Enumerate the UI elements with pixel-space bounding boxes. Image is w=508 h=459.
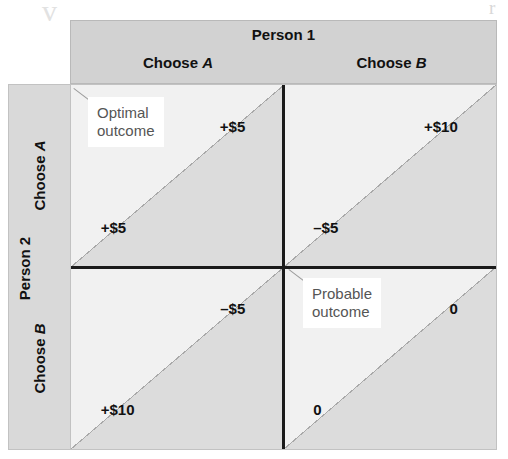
row-label-choose-b-choice: B [31, 323, 48, 334]
row-header-band: Person 2 Choose A Choose B [8, 84, 71, 450]
payoff-person1-a-b: +$10 [424, 118, 458, 135]
payoff-person1-a-a: +$5 [220, 118, 245, 135]
column-header-band: Person 1 Choose A Choose B [70, 20, 497, 84]
triangle-upper-a-b [284, 85, 497, 267]
column-label-choose-b-choice: B [416, 54, 427, 71]
column-label-choose-b: Choose B [285, 54, 498, 71]
column-label-choose-a: Choose A [71, 54, 285, 71]
column-label-choose-a-choice: A [202, 54, 213, 71]
scan-artifact-right: r [489, 0, 495, 19]
row-label-choose-a-prefix: Choose [31, 151, 48, 210]
column-label-choose-b-prefix: Choose [356, 54, 415, 71]
scan-artifact-left: v [42, 0, 55, 28]
payoff-person2-b-a: +$10 [101, 401, 135, 418]
matrix-divider-horizontal [71, 266, 496, 269]
row-label-choose-b-prefix: Choose [31, 334, 48, 393]
column-label-choose-a-prefix: Choose [143, 54, 202, 71]
row-label-choose-a-choice: A [31, 140, 48, 151]
callout-probable-outcome: Probable outcome [303, 278, 381, 328]
row-label-choose-a: Choose A [31, 85, 48, 267]
payoff-person2-b-b: 0 [313, 401, 321, 418]
column-header-title: Person 1 [71, 26, 496, 43]
row-label-choose-b: Choose B [31, 268, 48, 450]
payoff-person2-a-a: +$5 [101, 219, 126, 236]
payoff-person1-b-b: 0 [449, 300, 457, 317]
payoff-person1-b-a: –$5 [220, 300, 245, 317]
triangle-upper-b-a [71, 267, 284, 449]
matrix-cell-a-b: +$10 –$5 [284, 85, 497, 267]
matrix-cell-b-a: –$5 +$10 [71, 267, 284, 449]
payoff-person2-a-b: –$5 [313, 219, 338, 236]
callout-optimal-outcome: Optimal outcome [88, 97, 164, 147]
